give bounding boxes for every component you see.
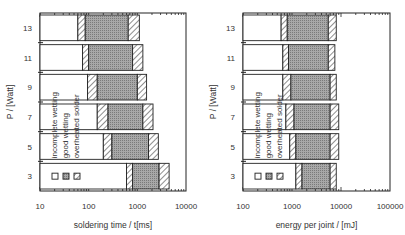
y-tick-label: 3 [231, 172, 236, 181]
segment-good-wetting [291, 74, 330, 100]
segment-transition [283, 74, 291, 100]
x-tick-label: 100 [82, 202, 96, 211]
x-tick-label: 1000 [128, 202, 146, 211]
y-tick-label: 5 [231, 143, 236, 152]
segment-incomplete-wetting [40, 15, 78, 41]
y-axis-label: P / [Watt] [5, 85, 15, 119]
x-tick-label: 100000 [377, 202, 404, 211]
segment-transition [78, 15, 85, 41]
segment-good-wetting [302, 163, 330, 189]
legend-label: good wetting [264, 113, 273, 158]
legend-label: incomplete wetting [50, 92, 59, 158]
y-tick-label: 5 [28, 143, 33, 152]
legend-label: good wetting [61, 113, 70, 158]
legend-swatch-overheated [277, 173, 283, 179]
segment-overheated-solder [330, 74, 336, 100]
segment-overheated-solder [330, 134, 339, 160]
segment-good-wetting [287, 15, 328, 41]
legend-label: overheated solder [275, 94, 284, 158]
left-plot: 10100100010000soldering time / t[ms]P / … [5, 13, 198, 230]
y-tick-label: 13 [226, 24, 235, 33]
segment-good-wetting [85, 15, 128, 41]
y-axis-label: P / [Watt] [208, 85, 218, 119]
segment-good-wetting [294, 104, 330, 130]
y-tick-label: 3 [28, 172, 33, 181]
y-tick-label: 7 [231, 113, 236, 122]
segment-overheated-solder [328, 15, 336, 41]
segment-good-wetting [108, 104, 143, 130]
x-axis-label: soldering time / t[ms] [74, 220, 152, 230]
bar-row-P13 [243, 15, 336, 41]
segment-transition [286, 104, 294, 130]
segment-overheated-solder [137, 74, 146, 100]
segment-overheated-solder [143, 104, 153, 130]
segment-incomplete-wetting [40, 45, 83, 71]
segment-transition [281, 15, 287, 41]
segment-good-wetting [133, 163, 159, 189]
x-tick-label: 10000 [330, 202, 353, 211]
legend-swatch-incomplete [52, 173, 58, 179]
segment-incomplete-wetting [243, 45, 283, 71]
x-tick-label: 100 [236, 202, 250, 211]
segment-transition [97, 104, 108, 130]
y-tick-label: 9 [28, 83, 33, 92]
segment-incomplete-wetting [243, 15, 281, 41]
chart-figure: 10100100010000soldering time / t[ms]P / … [0, 0, 405, 235]
segment-transition [83, 45, 89, 71]
y-tick-label: 9 [231, 83, 236, 92]
bar-row-P11 [243, 45, 335, 71]
segment-transition [88, 74, 98, 100]
legend-swatch-good [266, 173, 272, 179]
x-tick-label: 10 [36, 202, 45, 211]
bar-row-P3 [40, 163, 169, 189]
y-tick-label: 7 [28, 113, 33, 122]
x-tick-label: 1000 [283, 202, 301, 211]
segment-transition [296, 163, 302, 189]
segment-good-wetting [289, 45, 329, 71]
legend-swatch-good [63, 173, 69, 179]
segment-overheated-solder [328, 45, 335, 71]
x-axis-label: energy per joint / [mJ] [276, 220, 358, 230]
segment-good-wetting [112, 134, 149, 160]
right-plot: 100100010000100000energy per joint / [mJ… [208, 13, 404, 230]
segment-overheated-solder [133, 45, 143, 71]
y-tick-label: 11 [227, 54, 236, 63]
segment-overheated-solder [330, 104, 339, 130]
segment-transition [290, 134, 296, 160]
segment-transition [103, 134, 112, 160]
y-tick-label: 13 [23, 24, 32, 33]
legend-label: incomplete wetting [253, 92, 262, 158]
segment-overheated-solder [330, 163, 336, 189]
legend-label: overheated solder [72, 94, 81, 158]
legend-swatch-incomplete [255, 173, 261, 179]
bar-row-P11 [40, 45, 143, 71]
segment-transition [283, 45, 289, 71]
x-tick-label: 10000 [175, 202, 198, 211]
segment-overheated-solder [128, 15, 139, 41]
segment-transition [127, 163, 133, 189]
y-tick-label: 11 [24, 54, 33, 63]
segment-good-wetting [296, 134, 330, 160]
segment-good-wetting [97, 74, 137, 100]
bar-row-P13 [40, 15, 139, 41]
segment-overheated-solder [149, 134, 159, 160]
legend-swatch-overheated [74, 173, 80, 179]
segment-good-wetting [89, 45, 133, 71]
segment-overheated-solder [159, 163, 169, 189]
